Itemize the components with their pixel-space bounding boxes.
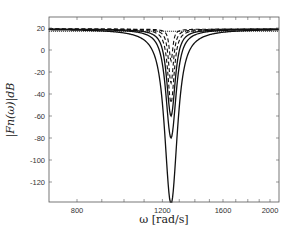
y-tick-label: -80 <box>34 134 45 143</box>
plot-curves <box>49 29 279 202</box>
svg-text:|Fn(ω)|dB: |Fn(ω)|dB <box>4 83 18 138</box>
y-tick-label: -40 <box>34 90 45 99</box>
x-tick-label: 2000 <box>262 206 279 215</box>
y-tick-label: -120 <box>30 178 45 187</box>
x-tick-label: 1600 <box>215 206 232 215</box>
y-tick-label: -60 <box>34 112 45 121</box>
notch-filter-chart: 800120016002000 200-20-40-60-80-100-120 … <box>0 0 293 237</box>
x-tick-label: 800 <box>71 206 84 215</box>
y-axis-ticks: 200-20-40-60-80-100-120 <box>30 24 279 187</box>
series-dashed-1 <box>49 29 279 103</box>
y-tick-label: 0 <box>41 46 45 55</box>
y-axis-label: |Fn(ω)|dB <box>4 83 18 138</box>
x-axis-label: ω [rad/s] <box>139 213 188 226</box>
y-tick-label: -20 <box>34 68 45 77</box>
plot-frame <box>49 17 279 202</box>
y-tick-label: 20 <box>37 24 45 33</box>
y-tick-label: -100 <box>30 156 45 165</box>
